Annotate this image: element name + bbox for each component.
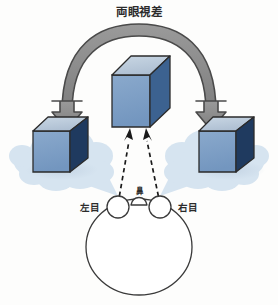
head-outline — [86, 199, 192, 295]
left-eye-view-cube — [33, 117, 88, 172]
left-eye-label: 左目 — [79, 202, 100, 213]
left-cube-front-face — [33, 131, 70, 172]
left-eye-circle — [107, 196, 129, 218]
nose-label: 鼻 — [136, 186, 144, 196]
center-cube-front-face — [112, 75, 150, 127]
right-cube-front-face — [199, 131, 236, 172]
diagram-canvas: 両眼視差 — [0, 0, 278, 305]
diagram-title: 両眼視差 — [116, 5, 163, 19]
right-eye-circle — [149, 196, 171, 218]
center-cube — [112, 56, 170, 127]
binocular-disparity-diagram: 両眼視差 — [0, 0, 278, 305]
right-eye-view-cube — [199, 117, 254, 172]
right-eye-label: 右目 — [177, 202, 198, 213]
